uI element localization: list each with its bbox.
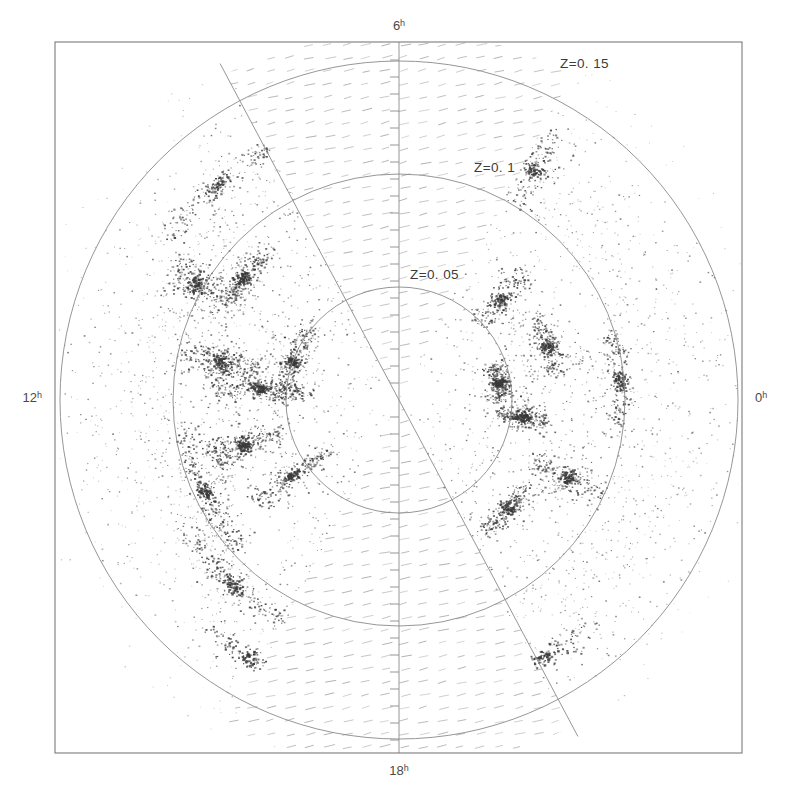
tick-layer	[390, 60, 399, 740]
ra-label-layer: 6h0h18h12h	[23, 18, 768, 778]
label-ra-12h: 12h	[23, 390, 42, 405]
label-ra-0h: 0h	[755, 390, 767, 405]
label-z-005: Z=0. 05	[410, 267, 459, 282]
hatch-layer	[57, 42, 736, 749]
redshift-label-layer: Z=0. 05Z=0. 1Z=0. 15	[410, 56, 609, 282]
lower-wedge-edge	[399, 400, 578, 736]
label-z-015: Z=0. 15	[560, 56, 609, 71]
cone-diagram-plot: Z=0. 05Z=0. 1Z=0. 15 6h0h18h12h	[0, 0, 786, 791]
upper-wedge-edge	[220, 64, 399, 400]
upper-wedge	[57, 42, 735, 749]
label-ra-18h: 18h	[389, 763, 408, 778]
redshift-cone-figure: Z=0. 05Z=0. 1Z=0. 15 6h0h18h12h	[0, 0, 786, 791]
label-z-01: Z=0. 1	[474, 160, 515, 175]
label-ra-6h: 6h	[393, 18, 405, 33]
lower-wedge	[57, 42, 736, 749]
grid-layer	[60, 42, 738, 753]
plot-frame	[55, 42, 742, 753]
